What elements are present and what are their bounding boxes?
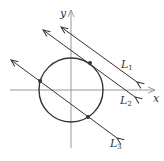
circle-lines-diagram: x y L1 L2 L3 (0, 0, 164, 161)
label-l2: L2 (119, 94, 132, 108)
intersection-point-1 (38, 79, 42, 83)
label-l3: L3 (109, 137, 122, 151)
intersection-point-2 (86, 115, 90, 119)
label-l1: L1 (120, 58, 133, 72)
y-axis-label: y (59, 7, 67, 20)
tangent-point (88, 61, 92, 65)
x-axis-label: x (153, 92, 160, 105)
